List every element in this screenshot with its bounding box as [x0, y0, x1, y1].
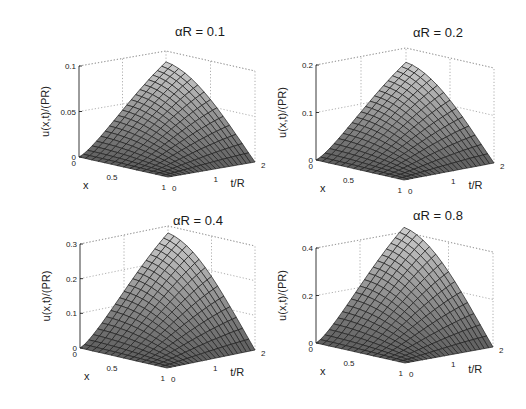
x-axis-label: x	[83, 179, 89, 191]
x-tick-label: 0	[309, 162, 314, 171]
x-axis-label: x	[84, 370, 90, 382]
t-tick-label: 0	[171, 375, 176, 384]
subplot-1: 00.050.100.51012xt/Ru(x,t)/(PR)αR = 0.1	[39, 24, 266, 193]
t-tick-label: 1	[451, 360, 456, 369]
z-tick-label: 0.4	[302, 244, 314, 253]
x-tick-label: 1	[398, 186, 403, 195]
z-axis-label: u(x,t)/(PR)	[39, 86, 51, 137]
t-tick-label: 2	[499, 346, 504, 355]
x-tick-label: 1	[161, 374, 166, 383]
t-axis-label: t/R	[231, 177, 245, 189]
t-tick-label: 2	[261, 161, 266, 170]
subplot-3: 00.10.20.300.51012xt/Ru(x,t)/(PR)αR = 0.…	[40, 213, 266, 384]
t-axis-label: t/R	[469, 179, 483, 191]
t-axis-label: t/R	[468, 363, 482, 375]
t-tick-label: 1	[213, 364, 218, 373]
z-tick-label: 0.2	[302, 292, 314, 301]
x-tick-label: 1	[162, 183, 167, 192]
x-tick-label: 0	[72, 159, 77, 168]
t-tick-label: 0	[409, 370, 414, 379]
x-tick-label: 0.5	[106, 173, 118, 182]
z-tick-label: 0.1	[302, 109, 314, 118]
subplot-title: αR = 0.1	[175, 24, 225, 39]
z-tick-label: 0.05	[60, 108, 76, 117]
x-tick-label: 0.5	[343, 176, 355, 185]
t-tick-label: 0	[408, 187, 413, 196]
t-tick-label: 2	[500, 162, 505, 171]
t-tick-label: 1	[214, 175, 219, 184]
x-tick-label: 0	[73, 350, 78, 359]
x-tick-label: 1	[399, 369, 404, 378]
subplot-4: 00.20.400.51012xt/Ru(x,t)/(PR)αR = 0.8	[276, 208, 504, 379]
x-axis-label: x	[320, 182, 326, 194]
z-axis-label: u(x,t)/(PR)	[276, 270, 288, 321]
z-tick-label: 0.1	[66, 309, 78, 318]
x-tick-label: 0	[309, 345, 314, 354]
t-axis-label: t/R	[230, 366, 244, 378]
x-axis-label: x	[320, 365, 326, 377]
t-tick-label: 1	[451, 177, 456, 186]
z-axis-label: u(x,t)/(PR)	[276, 87, 288, 138]
surface-plot-grid: 00.050.100.51012xt/Ru(x,t)/(PR)αR = 0.10…	[0, 0, 526, 409]
z-tick-label: 0.1	[65, 62, 77, 71]
subplot-title: αR = 0.2	[413, 25, 463, 40]
subplot-title: αR = 0.8	[413, 208, 463, 223]
z-tick-label: 0.2	[302, 61, 314, 70]
x-tick-label: 0.5	[106, 364, 118, 373]
subplot-title: αR = 0.4	[173, 213, 223, 228]
t-tick-label: 2	[261, 349, 266, 358]
z-axis-label: u(x,t)/(PR)	[40, 271, 52, 322]
figure: 00.050.100.51012xt/Ru(x,t)/(PR)αR = 0.10…	[0, 0, 526, 409]
z-tick-label: 0.2	[66, 275, 78, 284]
z-tick-label: 0.3	[66, 240, 78, 249]
x-tick-label: 0.5	[343, 359, 355, 368]
t-tick-label: 0	[172, 184, 177, 193]
subplot-2: 00.10.200.51012xt/Ru(x,t)/(PR)αR = 0.2	[276, 25, 505, 196]
